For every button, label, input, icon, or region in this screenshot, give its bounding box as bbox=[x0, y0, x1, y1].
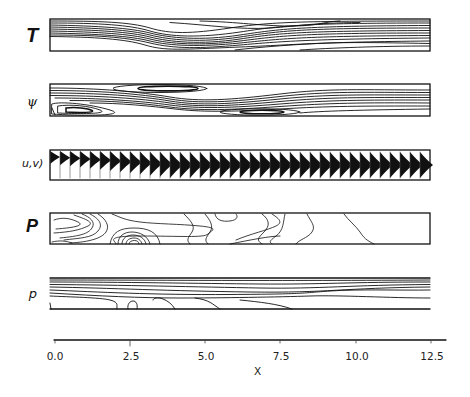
x-tick-7-5: 7.5 bbox=[273, 350, 290, 362]
x-tick-0: 0.0 bbox=[47, 350, 64, 362]
velocity-profile-icon bbox=[50, 151, 60, 164]
velocity-profile-icon bbox=[60, 151, 70, 165]
x-axis-label: X bbox=[254, 365, 261, 377]
x-tick-10: 10.0 bbox=[345, 350, 368, 362]
panel-psi bbox=[50, 84, 430, 116]
plot-canvas bbox=[0, 0, 470, 397]
velocity-profile-icon bbox=[100, 151, 111, 170]
x-tick-2-5: 2.5 bbox=[123, 350, 140, 362]
velocity-profile-icon bbox=[420, 152, 433, 178]
panel-T bbox=[50, 19, 430, 51]
velocity-profile-icon bbox=[80, 151, 91, 168]
x-tick-12-5: 12.5 bbox=[420, 350, 443, 362]
panel-P bbox=[50, 213, 430, 244]
x-tick-5: 5.0 bbox=[198, 350, 215, 362]
panel-p bbox=[50, 278, 430, 309]
x-axis bbox=[54, 340, 446, 346]
panel-uv bbox=[50, 150, 433, 180]
figure: T ψ u,v) P p bbox=[0, 0, 470, 397]
velocity-profile-icon bbox=[90, 151, 101, 169]
velocity-profile-icon bbox=[70, 151, 81, 166]
